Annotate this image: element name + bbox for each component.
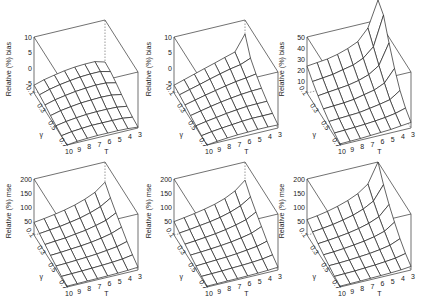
x-tick-label: 4 [268,133,272,140]
surface-mesh [174,34,278,145]
x-tick-label: 5 [391,136,395,143]
figure: -505101098765430.10.30.50.7Relative (%) … [0,0,423,307]
z-tick-label: 10 [164,34,172,41]
y-tick-label: 0.3 [309,102,320,114]
x-tick-label: 4 [268,275,272,282]
x-tick-label: 3 [411,273,415,280]
z-axis-label: Relative (%) bias [277,41,286,96]
x-tick-label: 7 [97,283,101,290]
z-tick-label: 150 [293,190,305,197]
x-axis-label: T [377,148,382,155]
y-tick-label: 0.1 [298,227,309,239]
x-tick-label: 9 [77,146,81,153]
x-tick-label: 6 [248,138,252,145]
panel-mse-2: 501001502001098765430.10.30.50.7Relative… [144,162,282,297]
x-tick-label: 6 [381,280,385,287]
x-tick-label: 9 [350,288,354,295]
z-tick-label: 0 [168,65,172,72]
x-tick-label: 8 [360,285,364,292]
y-axis-label: γ [313,131,317,139]
x-tick-label: 8 [87,143,91,150]
x-tick-label: 5 [118,136,122,143]
z-axis-label: Relative (%) mse [4,184,13,239]
x-tick-label: 3 [138,131,142,138]
surface-plot-grid: -505101098765430.10.30.50.7Relative (%) … [0,0,423,307]
x-tick-label: 7 [237,283,241,290]
x-tick-label: 9 [77,288,81,295]
x-tick-label: 9 [350,146,354,153]
panel-bias-3: 10203040501098765430.10.30.50.7Relative … [277,0,415,155]
y-tick-label: 0.1 [298,85,309,97]
x-tick-label: 7 [370,283,374,290]
z-tick-label: 50 [297,218,305,225]
x-tick-label: 8 [227,143,231,150]
z-axis-label: Relative (%) mse [277,184,286,239]
surface-mesh [34,62,138,145]
z-tick-label: 150 [20,190,32,197]
x-tick-label: 9 [217,288,221,295]
x-axis-label: T [104,148,109,155]
z-axis-ticks: 1020304050 [297,34,305,86]
x-tick-label: 4 [128,275,132,282]
surface-mesh [34,182,138,286]
x-tick-label: 3 [138,273,142,280]
y-axis-label: γ [180,273,184,281]
z-tick-label: 30 [297,56,305,63]
x-tick-label: 5 [391,278,395,285]
x-axis-label: T [244,290,249,297]
z-tick-label: 0 [28,65,32,72]
panel-mse-3: 501001502001098765430.10.30.50.7Relative… [277,162,415,297]
z-axis-ticks: -50510 [164,34,172,88]
z-tick-label: 5 [168,49,172,56]
x-tick-label: 4 [401,275,405,282]
x-tick-label: 5 [258,278,262,285]
x-tick-label: 6 [381,138,385,145]
x-tick-label: 10 [205,148,213,155]
z-axis-ticks: 50100150200 [293,176,305,225]
z-tick-label: 10 [24,34,32,41]
z-axis-ticks: 50100150200 [160,176,172,225]
y-axis-label: γ [180,131,184,139]
panel-bias-2: -505101098765430.10.30.50.7Relative (%) … [144,20,282,155]
x-tick-label: 4 [128,133,132,140]
x-tick-label: 10 [338,148,346,155]
x-tick-label: 6 [108,280,112,287]
y-axis-label: γ [313,273,317,281]
y-tick-label: 0.3 [309,244,320,256]
z-axis-label: Relative (%) bias [4,41,13,96]
x-tick-label: 7 [370,141,374,148]
x-tick-label: 8 [87,285,91,292]
x-tick-label: 7 [237,141,241,148]
x-tick-label: 8 [360,143,364,150]
z-tick-label: 100 [20,204,32,211]
x-tick-label: 5 [118,278,122,285]
x-tick-label: 6 [108,138,112,145]
x-axis-label: T [244,148,249,155]
z-tick-label: 200 [160,176,172,183]
x-axis-label: T [104,290,109,297]
x-tick-label: 5 [258,136,262,143]
x-tick-label: 4 [401,133,405,140]
z-tick-label: 150 [160,190,172,197]
x-tick-label: 8 [227,285,231,292]
z-axis-label: Relative (%) mse [144,184,153,239]
z-tick-label: 100 [160,204,172,211]
x-tick-label: 10 [65,148,73,155]
y-axis-label: γ [40,131,44,139]
z-tick-label: 200 [293,176,305,183]
z-axis-label: Relative (%) bias [144,41,153,96]
z-tick-label: 50 [164,218,172,225]
x-tick-label: 7 [97,141,101,148]
surface-mesh [174,180,278,286]
y-tick-label: 0.1 [165,227,176,239]
z-tick-label: 20 [297,67,305,74]
panel-bias-1: -505101098765430.10.30.50.7Relative (%) … [4,20,142,155]
z-tick-label: 50 [24,218,32,225]
z-axis-ticks: -50510 [24,34,32,88]
x-tick-label: 3 [278,273,282,280]
z-tick-label: 200 [20,176,32,183]
panel-mse-1: 501001502001098765430.10.30.50.7Relative… [4,162,142,297]
z-tick-label: 50 [297,34,305,41]
x-tick-label: 6 [248,280,252,287]
x-axis-label: T [377,290,382,297]
